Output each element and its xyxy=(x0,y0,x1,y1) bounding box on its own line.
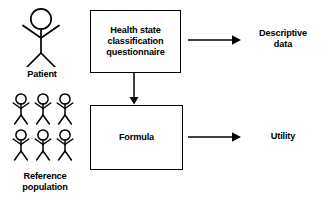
box-formula-label: Formula xyxy=(119,132,154,143)
patient-figure xyxy=(14,5,70,67)
patient-caption: Patient xyxy=(4,69,80,80)
outcome-descriptive-data: Descriptive data xyxy=(246,28,320,50)
reference-population-figures xyxy=(10,92,78,166)
box-health-state-classification-questionnaire-label: Health state classification questionnair… xyxy=(106,25,164,59)
arrow-questionnaire-to-descriptive-data xyxy=(186,31,242,49)
diagram-canvas: Patient xyxy=(0,0,322,205)
reference-population-caption: Reference population xyxy=(2,171,88,193)
arrow-right-icon xyxy=(186,31,242,49)
arrow-questionnaire-to-formula xyxy=(126,73,142,105)
box-health-state-classification-questionnaire[interactable]: Health state classification questionnair… xyxy=(90,10,181,73)
box-formula[interactable]: Formula xyxy=(90,105,183,170)
stick-figure-person-icon xyxy=(14,5,70,67)
arrow-formula-to-utility xyxy=(186,128,242,146)
stick-figure-group-icon xyxy=(10,92,78,166)
arrow-right-icon xyxy=(186,128,242,146)
arrow-down-icon xyxy=(126,73,142,105)
outcome-utility: Utility xyxy=(246,131,320,142)
